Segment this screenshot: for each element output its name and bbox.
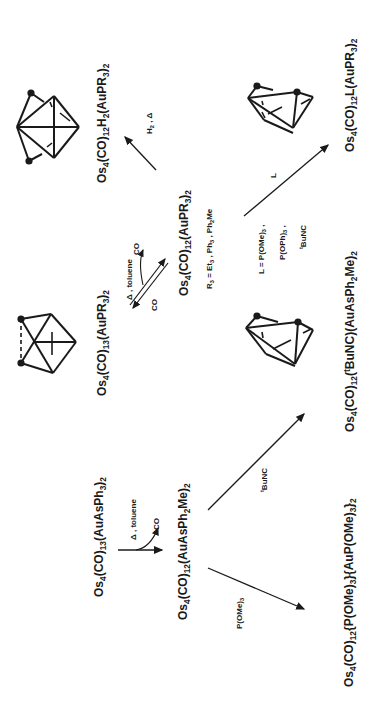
condition-co-loss-1: CO [153, 518, 161, 530]
arrow-start-to-intermediate [118, 528, 162, 550]
condition-co-bottom: CO [151, 299, 159, 311]
tetrahedral-ligand-cluster [248, 82, 313, 133]
octahedral-dihydride-cluster [17, 89, 79, 164]
condition-l-definition-2: P(OPh)3 , [279, 225, 288, 260]
arrow-to-ligand-product [244, 145, 328, 216]
condition-l-arrow: L [270, 173, 278, 178]
compound-co13-phosphine: Os4(CO)13(AuPR3)2 [96, 290, 110, 396]
compound-ligand-product: Os4(CO)12L(AuPR3)2 [344, 39, 358, 152]
condition-l-definition-3: tBuNC [299, 225, 308, 249]
arrow-to-dihydride [125, 137, 156, 170]
condition-l-definition-1: L = P(OMe)3 , [258, 225, 267, 274]
condition-tbunc: tBuNC [260, 468, 269, 492]
condition-delta-toluene-1: Δ , toluene [130, 499, 138, 540]
compound-co12-phosphine: Os4(CO)12(AuPR3)2 [178, 190, 192, 296]
arrow-to-phosphite [208, 568, 304, 609]
compound-start: Os4(CO)13(AuAsPh3)2 [93, 477, 107, 597]
compound-isocyanide-product: Os4(CO)12(tBuNC)(AuAsPh2Me)2 [343, 251, 358, 432]
condition-co-top: CO [133, 243, 141, 255]
equilibrium-arrows [130, 250, 168, 308]
condition-h2-delta: H2 , Δ [146, 113, 155, 134]
butterfly-co13-cluster [17, 314, 76, 373]
reaction-scheme: Os4(CO)13(AuAsPh3)2 Os4(CO)12(AuAsPh2Me)… [0, 0, 375, 707]
condition-p-ome3: P(OMe)3 [236, 598, 245, 629]
arrow-to-isocyanide [208, 414, 304, 510]
condition-r3-definition: R3 = Et3 , Ph3 , Ph2Me [206, 209, 215, 289]
compound-phosphite-product: Os4(CO)12{P(OMe)3}{AuP(OMe)3}2 [343, 498, 357, 687]
compound-intermediate: Os4(CO)12(AuAsPh2Me)2 [177, 483, 191, 620]
tetrahedral-isocyanide-cluster [246, 312, 313, 366]
condition-delta-toluene-2: Δ , toluene [126, 259, 134, 300]
compound-dihydride-product: Os4(CO)12H2(AuPR3)2 [96, 64, 110, 183]
